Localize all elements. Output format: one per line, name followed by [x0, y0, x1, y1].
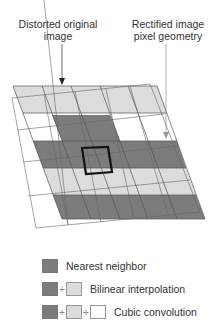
legend-label: Cubic convolution	[114, 306, 197, 318]
light-swatch	[66, 305, 82, 319]
distorted-pointer-arrow	[59, 44, 65, 85]
plus-sign: +	[59, 307, 65, 318]
plus-sign: +	[59, 284, 65, 295]
legend-bilinear-interpolation: + Bilinear interpolation	[42, 281, 185, 297]
legend-label: Nearest neighbor	[66, 260, 147, 272]
white-swatch	[90, 305, 106, 319]
dark-swatch	[42, 259, 58, 273]
legend-cubic-convolution: + + Cubic convolution	[42, 304, 197, 320]
light-swatch	[66, 282, 82, 296]
legend-nearest-neighbor: Nearest neighbor	[42, 258, 147, 274]
plus-sign: +	[83, 307, 89, 318]
legend-label: Bilinear interpolation	[90, 283, 185, 295]
dark-swatch	[42, 305, 58, 319]
dark-swatch	[42, 282, 58, 296]
